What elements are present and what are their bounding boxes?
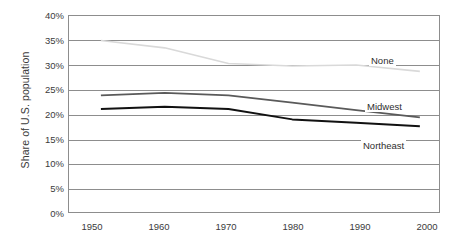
y-tick-label: 25% <box>30 85 64 95</box>
y-tick-label: 10% <box>30 159 64 169</box>
series-label-none: None <box>369 55 396 66</box>
y-tick-label: 35% <box>30 36 64 46</box>
y-tick-label: 40% <box>30 11 64 21</box>
x-tick-label: 1980 <box>282 221 303 232</box>
series-label-midwest: Midwest <box>365 101 404 112</box>
x-tick-label: 1970 <box>215 221 236 232</box>
plot-area: None Midwest Northeast <box>68 15 440 213</box>
series-lines <box>69 16 439 212</box>
y-tick-label: 15% <box>30 135 64 145</box>
y-axis-tick-labels: 40% 35% 30% 25% 20% 15% 10% 5% 0% <box>26 0 64 244</box>
line-chart: Share of U.S. population 40% 35% 30% 25%… <box>0 0 473 244</box>
x-tick-label: 1960 <box>148 221 169 232</box>
y-tick-label: 0% <box>30 209 64 219</box>
x-tick-label: 1950 <box>81 221 102 232</box>
y-tick-label: 30% <box>30 61 64 71</box>
y-tick-label: 5% <box>30 184 64 194</box>
y-tick-label: 20% <box>30 110 64 120</box>
series-label-northeast: Northeast <box>361 140 406 151</box>
x-tick-label: 1990 <box>349 221 370 232</box>
x-tick-label: 2000 <box>416 221 437 232</box>
